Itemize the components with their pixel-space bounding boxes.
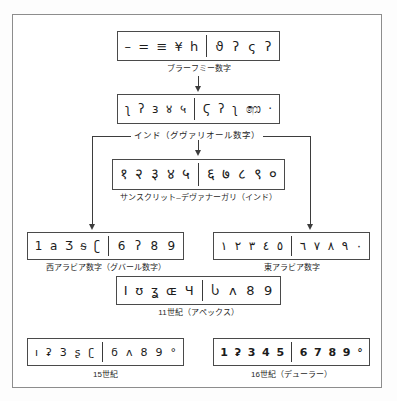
- east-arabic-left-group: ١ ٢ ٣ ٤ ٥: [214, 233, 290, 259]
- sixteenth-century-left-group: 1 ʡ 3 4 5: [214, 339, 290, 365]
- eleventh-century-right-group: Ⴑ ʌ 8 9: [204, 277, 280, 304]
- glyph-west-arabic-7: ʔ: [135, 240, 141, 252]
- sixteenth-century-divider: [291, 342, 292, 362]
- glyph-box-west-arabic: 1 a Ʒ ᵴ ʗ 6 ʔ 8 9: [27, 232, 184, 260]
- caption-east-arabic: 東アラビア数字: [213, 262, 370, 273]
- glyph-16c-4: 4: [262, 347, 270, 358]
- eleventh-century-divider: [202, 280, 203, 301]
- arrowhead-bracket-left: [89, 224, 95, 230]
- glyph-brahmi-1: –: [125, 40, 132, 53]
- glyph-west-arabic-3: Ʒ: [65, 240, 73, 252]
- glyph-15c-3: 3: [60, 347, 67, 358]
- glyph-15c-2: ʡ: [46, 347, 52, 358]
- glyph-16c-5: 5: [276, 347, 284, 358]
- arrowhead-brahmi-to-gwalior: [195, 86, 201, 92]
- sanskrit-right-group: ६ ७ ८ ९ ०: [200, 160, 284, 189]
- glyph-16c-8: 8: [328, 347, 336, 358]
- glyph-east-arabic-3: ٣: [249, 240, 255, 252]
- east-arabic-divider: [291, 236, 292, 256]
- glyph-16c-6: 6: [300, 347, 308, 358]
- east-arabic-right-group: ٦ ٧ ٨ ٩ ٠: [293, 233, 369, 259]
- glyph-east-arabic-6: ٦: [300, 240, 306, 252]
- bracket-left-leg: [92, 136, 93, 226]
- fifteenth-century-right-group: ϭ ʌ 8 9 °: [104, 339, 183, 365]
- glyph-sanskrit-4: ४: [167, 167, 175, 182]
- glyph-sanskrit-1: १: [120, 167, 128, 182]
- glyph-box-eleventh-century: I ʊ ʓ ɶ Ч Ⴑ ʌ 8 9: [116, 276, 281, 305]
- fifteenth-century-divider: [102, 342, 103, 362]
- glyph-15c-7: ʌ: [126, 347, 133, 358]
- bracket-right-leg: [310, 136, 311, 226]
- glyph-gwalior-0: ·: [268, 103, 272, 115]
- brahmi-left-group: – = ≡ ¥ h: [118, 32, 205, 60]
- glyph-gwalior-9: ෩: [246, 103, 261, 115]
- glyph-sanskrit-6: ६: [207, 167, 215, 182]
- arrowhead-gwalior-to-sanskrit: [195, 150, 201, 156]
- glyph-west-arabic-2: a: [50, 240, 57, 252]
- glyph-11c-9: 9: [264, 284, 272, 297]
- glyph-15c-0: °: [170, 347, 176, 358]
- glyph-sanskrit-2: २: [135, 167, 143, 182]
- west-arabic-right-group: 6 ʔ 8 9: [110, 233, 183, 259]
- glyph-brahmi-2: =: [138, 40, 149, 53]
- caption-brahmi: ブラーフミー数字: [117, 63, 280, 74]
- glyph-16c-9: 9: [343, 347, 351, 358]
- glyph-box-east-arabic: ١ ٢ ٣ ٤ ٥ ٦ ٧ ٨ ٩ ٠: [213, 232, 370, 260]
- glyph-brahmi-7: ʔ: [233, 40, 240, 53]
- caption-sanskrit-devanagari: サンスクリット–デヴァナーガリ（インド）: [92, 192, 305, 203]
- glyph-brahmi-5: h: [190, 40, 198, 53]
- glyph-brahmi-3: ≡: [156, 40, 167, 53]
- glyph-east-arabic-2: ٢: [235, 240, 241, 252]
- glyph-15c-5: ʗ: [88, 347, 94, 358]
- sanskrit-divider: [198, 163, 199, 186]
- glyph-gwalior-4: ४: [166, 103, 172, 115]
- glyph-16c-1: 1: [220, 347, 228, 358]
- glyph-brahmi-6: ϑ: [215, 40, 223, 53]
- glyph-sanskrit-5: ५: [182, 167, 190, 182]
- glyph-16c-0: °: [357, 347, 363, 358]
- glyph-west-arabic-8: 8: [150, 240, 158, 252]
- glyph-gwalior-8: ʅ: [232, 103, 238, 115]
- glyph-15c-4: ʂ: [75, 347, 81, 358]
- brahmi-right-group: ϑ ʔ ς ʔ: [208, 32, 279, 60]
- glyph-gwalior-5: ५: [180, 103, 186, 115]
- glyph-box-fifteenth-century: ı ʡ 3 ʂ ʗ ϭ ʌ 8 9 °: [27, 338, 184, 366]
- caption-eleventh-century: 11世紀（アペックス）: [116, 307, 281, 318]
- glyph-15c-8: 8: [140, 347, 147, 358]
- glyph-west-arabic-4: ᵴ: [81, 240, 87, 252]
- glyph-11c-3: ʓ: [151, 284, 159, 297]
- arrowhead-bracket-right: [307, 224, 313, 230]
- glyph-east-arabic-5: ٥: [277, 240, 283, 252]
- glyph-sanskrit-3: ३: [151, 167, 159, 182]
- bracket-label-india-gwalior: インド（グヴァリオール数字）: [131, 130, 263, 141]
- glyph-sanskrit-9: ९: [254, 167, 262, 182]
- glyph-11c-2: ʊ: [135, 284, 143, 297]
- glyph-gwalior-7: ʔ: [218, 103, 224, 115]
- gwalior-divider: [194, 98, 195, 120]
- glyph-gwalior-3: ɜ: [152, 103, 158, 115]
- gwalior-right-group: Ϛ ʔ ʅ ෩ ·: [196, 95, 279, 123]
- glyph-11c-1: I: [124, 284, 128, 297]
- glyph-box-brahmi: – = ≡ ¥ h ϑ ʔ ς ʔ: [117, 31, 280, 61]
- glyph-west-arabic-5: ʗ: [94, 240, 100, 252]
- caption-fifteenth-century: 15世紀: [27, 369, 184, 380]
- glyph-15c-1: ı: [35, 347, 38, 358]
- glyph-east-arabic-9: ٩: [342, 240, 348, 252]
- glyph-sanskrit-8: ८: [238, 167, 246, 182]
- glyph-gwalior-1: ʅ: [125, 103, 131, 115]
- glyph-15c-9: 9: [155, 347, 162, 358]
- glyph-sanskrit-7: ७: [222, 167, 230, 182]
- glyph-box-sanskrit-devanagari: १ २ ३ ४ ५ ६ ७ ८ ९ ०: [112, 159, 285, 190]
- glyph-west-arabic-1: 1: [35, 240, 43, 252]
- numeral-evolution-figure: – = ≡ ¥ h ϑ ʔ ς ʔ ブラーフミー数字 ʅ ʔ ɜ ४: [0, 0, 397, 401]
- glyph-east-arabic-4: ٤: [263, 240, 269, 252]
- glyph-16c-3: 3: [248, 347, 256, 358]
- glyph-15c-6: ϭ: [111, 347, 118, 358]
- sanskrit-left-group: १ २ ३ ४ ५: [113, 160, 197, 189]
- glyph-11c-6: Ⴑ: [211, 284, 219, 297]
- glyph-brahmi-8: ς: [248, 40, 256, 53]
- glyph-east-arabic-8: ٨: [328, 240, 334, 252]
- glyph-11c-5: Ч: [185, 284, 194, 297]
- glyph-16c-7: 7: [314, 347, 322, 358]
- glyph-11c-4: ɶ: [166, 284, 177, 297]
